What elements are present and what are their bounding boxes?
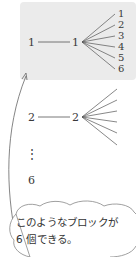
leaf-node: 6: [118, 64, 124, 74]
leaf-node: 1: [118, 9, 124, 19]
root-node-2: 2: [28, 112, 35, 123]
leaf-node: 3: [118, 31, 124, 41]
leaf-node: 2: [118, 20, 124, 30]
callout-line-2: 6 個できる。: [16, 231, 134, 248]
leaf-node: 4: [118, 42, 124, 52]
callout-bubble: このようなブロックが 6 個できる。: [16, 214, 134, 248]
callout-line-1: このようなブロックが: [16, 214, 134, 231]
root-node-6: 6: [28, 175, 35, 186]
leaf-node: 5: [118, 53, 124, 63]
second-node-2: 2: [72, 112, 79, 123]
second-node-1: 1: [72, 37, 79, 48]
root-node-1: 1: [28, 37, 35, 48]
vertical-ellipsis: ⋮: [26, 149, 38, 160]
